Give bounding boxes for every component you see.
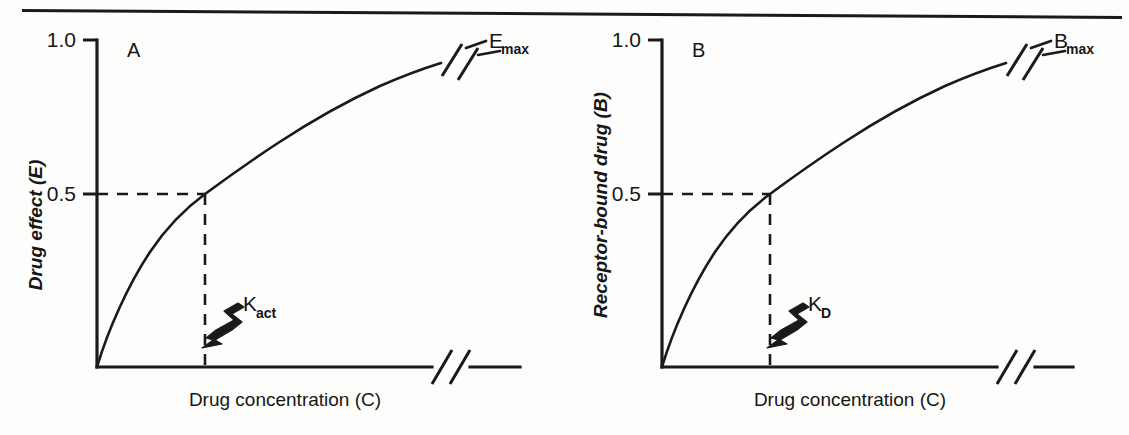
y-axis-title-a: Drug effect (E) (25, 160, 46, 291)
binding-curve-b (662, 63, 1006, 367)
panel-letter-a: A (127, 39, 141, 61)
y-axis-title-b: Receptor-bound drug (B) (590, 92, 611, 318)
kact-arrow-a (202, 303, 244, 348)
panel-letter-b: B (692, 39, 705, 61)
x-axis-title-b: Drug concentration (C) (754, 389, 946, 410)
curve-break-mark-a (442, 44, 478, 80)
kd-subscript-b: D (821, 305, 831, 321)
kact-label-a: K (243, 292, 257, 315)
x-axis-break-mark-b (997, 350, 1035, 384)
emax-subscript-a: max (501, 41, 529, 57)
y-tick-label-1-0-a: 1.0 (47, 28, 76, 51)
kd-label-b: K (808, 292, 822, 315)
bmax-leader-line-b (1031, 41, 1051, 48)
pharmacology-figure: 1.0 0.5 A E max (0, 0, 1129, 435)
panel-b: 1.0 0.5 B B max K D Receptor (565, 0, 1129, 435)
bmax-subscript-b: max (1066, 41, 1094, 57)
y-tick-label-0-5-a: 0.5 (47, 182, 76, 205)
kact-subscript-a: act (256, 305, 277, 321)
x-axis-title-a: Drug concentration (C) (189, 389, 381, 410)
kd-arrow-b (767, 303, 809, 348)
dose-response-curve-a (97, 63, 441, 367)
y-tick-label-1-0-b: 1.0 (612, 28, 641, 51)
curve-break-mark-b (1007, 44, 1043, 80)
emax-leader-line-a (466, 41, 486, 48)
panel-a: 1.0 0.5 A E max (0, 0, 565, 435)
y-tick-label-0-5-b: 0.5 (612, 182, 641, 205)
x-axis-break-mark-a (432, 350, 470, 384)
